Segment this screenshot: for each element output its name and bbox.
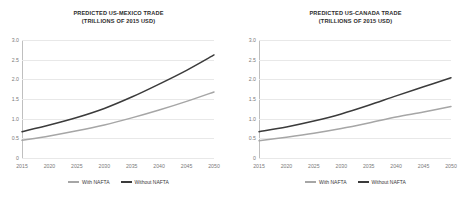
x-tick-label: 2015 — [253, 163, 265, 169]
x-tick-label: 2040 — [390, 163, 402, 169]
legend-label: With NAFTA — [82, 179, 109, 185]
y-tick-label: 3.0 — [237, 37, 256, 43]
legend-item[interactable]: With NAFTA — [305, 179, 346, 185]
y-tick-label: 1.5 — [237, 96, 256, 102]
charts-row: PREDICTED US-MEXICO TRADE (TRILLIONS OF … — [0, 0, 474, 198]
series-line-without-nafta — [259, 78, 451, 132]
x-tick-label: 2045 — [418, 163, 430, 169]
legend-swatch-icon — [68, 181, 79, 182]
chart-title-line-1: PREDICTED US-MEXICO TRADE — [73, 10, 163, 16]
chart-panel-us-mexico: PREDICTED US-MEXICO TRADE (TRILLIONS OF … — [0, 0, 237, 198]
chart-title: PREDICTED US-MEXICO TRADE (TRILLIONS OF … — [0, 9, 237, 25]
x-tick-label: 2020 — [44, 163, 56, 169]
x-tick-label: 2050 — [208, 163, 220, 169]
series-line-with-nafta — [259, 106, 451, 140]
chart-title-line-2: (TRILLIONS OF 2015 USD) — [237, 17, 474, 25]
x-tick-label: 2050 — [445, 163, 457, 169]
series-lines — [259, 40, 451, 158]
plot-area — [22, 40, 214, 158]
legend-swatch-icon — [358, 181, 369, 182]
legend-label: Without NAFTA — [372, 179, 406, 185]
chart-panel-us-canada: PREDICTED US-CANADA TRADE (TRILLIONS OF … — [237, 0, 474, 198]
y-tick-label: 1.0 — [0, 116, 19, 122]
y-tick-label: 0.5 — [237, 135, 256, 141]
x-tick-label: 2015 — [16, 163, 28, 169]
legend-item[interactable]: Without NAFTA — [358, 179, 406, 185]
legend: With NAFTAWithout NAFTA — [0, 179, 237, 185]
legend: With NAFTAWithout NAFTA — [237, 179, 474, 185]
legend-swatch-icon — [121, 181, 132, 182]
x-tick-label: 2030 — [336, 163, 348, 169]
y-tick-label: 2.5 — [237, 57, 256, 63]
legend-label: With NAFTA — [319, 179, 346, 185]
series-lines — [22, 40, 214, 158]
x-tick-label: 2020 — [281, 163, 293, 169]
chart-title-line-2: (TRILLIONS OF 2015 USD) — [0, 17, 237, 25]
x-tick-label: 2030 — [99, 163, 111, 169]
x-tick-label: 2035 — [363, 163, 375, 169]
gridline — [22, 158, 214, 159]
legend-swatch-icon — [305, 181, 316, 182]
y-tick-label: 2.5 — [0, 57, 19, 63]
y-tick-label: 0.5 — [0, 135, 19, 141]
y-tick-label: 2.0 — [237, 76, 256, 82]
y-tick-label: 0 — [237, 155, 256, 161]
chart-title-line-1: PREDICTED US-CANADA TRADE — [309, 10, 401, 16]
series-line-with-nafta — [22, 92, 214, 140]
y-tick-label: 0 — [0, 155, 19, 161]
legend-label: Without NAFTA — [135, 179, 169, 185]
series-line-without-nafta — [22, 55, 214, 132]
chart-title: PREDICTED US-CANADA TRADE (TRILLIONS OF … — [237, 9, 474, 25]
x-tick-label: 2025 — [71, 163, 83, 169]
x-tick-label: 2035 — [126, 163, 138, 169]
plot-area — [259, 40, 451, 158]
x-tick-label: 2040 — [153, 163, 165, 169]
x-tick-label: 2025 — [308, 163, 320, 169]
gridline — [259, 158, 451, 159]
legend-item[interactable]: With NAFTA — [68, 179, 109, 185]
y-tick-label: 1.5 — [0, 96, 19, 102]
y-tick-label: 3.0 — [0, 37, 19, 43]
y-tick-label: 2.0 — [0, 76, 19, 82]
x-tick-label: 2045 — [181, 163, 193, 169]
legend-item[interactable]: Without NAFTA — [121, 179, 169, 185]
y-tick-label: 1.0 — [237, 116, 256, 122]
